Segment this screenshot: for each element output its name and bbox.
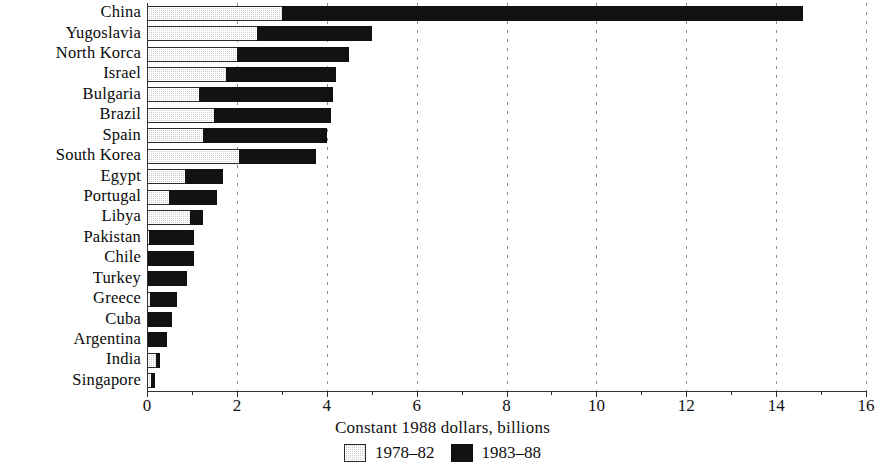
bar-israel bbox=[147, 67, 336, 82]
bar-segment-1978-82 bbox=[147, 87, 199, 102]
x-tick-minor bbox=[551, 391, 552, 395]
bar-segment-1978-82 bbox=[147, 169, 185, 184]
x-tick-label: 10 bbox=[576, 396, 616, 416]
bar-egypt bbox=[147, 169, 223, 184]
bar-segment-1983-88 bbox=[147, 271, 187, 286]
legend-item-early: 1978–82 bbox=[344, 443, 435, 463]
bar-libya bbox=[147, 210, 203, 225]
bar-cuba bbox=[147, 312, 172, 327]
bar-segment-1978-82 bbox=[147, 67, 226, 82]
bar-greece bbox=[147, 292, 177, 307]
bar-segment-1978-82 bbox=[147, 353, 156, 368]
x-tick-minor bbox=[372, 391, 373, 395]
bar-bulgaria bbox=[147, 87, 333, 102]
legend-label-early: 1978–82 bbox=[375, 443, 435, 463]
bar-india bbox=[147, 353, 160, 368]
bar-segment-1978-82 bbox=[147, 6, 282, 21]
bar-segment-1983-88 bbox=[169, 190, 216, 205]
category-label: Brazil bbox=[0, 106, 141, 122]
category-label: Turkey bbox=[0, 270, 141, 286]
category-label: Argentina bbox=[0, 331, 141, 347]
category-label: Cuba bbox=[0, 311, 141, 327]
bar-chile bbox=[147, 251, 194, 266]
x-tick-label: 12 bbox=[666, 396, 706, 416]
bar-pakistan bbox=[147, 230, 194, 245]
bar-segment-1983-88 bbox=[203, 128, 327, 143]
x-tick-minor bbox=[821, 391, 822, 395]
category-label: Singapore bbox=[0, 372, 141, 388]
bar-segment-1983-88 bbox=[214, 108, 331, 123]
x-tick-minor bbox=[462, 391, 463, 395]
bar-segment-1983-88 bbox=[156, 353, 160, 368]
x-tick-label: 0 bbox=[127, 396, 167, 416]
category-label: North Korca bbox=[0, 45, 141, 61]
bar-segment-1983-88 bbox=[226, 67, 336, 82]
bar-north-korca bbox=[147, 47, 349, 62]
plot-area bbox=[147, 3, 866, 391]
bar-segment-1983-88 bbox=[185, 169, 223, 184]
x-axis-title: Constant 1988 dollars, billions bbox=[0, 418, 885, 438]
x-tick-label: 14 bbox=[756, 396, 796, 416]
legend-item-late: 1983–88 bbox=[451, 443, 542, 463]
bar-segment-1983-88 bbox=[282, 6, 803, 21]
category-axis-labels: ChinaYugoslaviaNorth KorcaIsraelBulgaria… bbox=[0, 3, 141, 391]
category-label: Spain bbox=[0, 127, 141, 143]
category-label: India bbox=[0, 351, 141, 367]
x-tick-minor bbox=[641, 391, 642, 395]
bar-chart: ChinaYugoslaviaNorth KorcaIsraelBulgaria… bbox=[0, 0, 885, 467]
bar-brazil bbox=[147, 108, 331, 123]
x-tick-minor bbox=[192, 391, 193, 395]
category-label: Portugal bbox=[0, 188, 141, 204]
bar-segment-1978-82 bbox=[147, 190, 169, 205]
bar-segment-1983-88 bbox=[257, 26, 372, 41]
x-tick-minor bbox=[282, 391, 283, 395]
category-label: South Korea bbox=[0, 147, 141, 163]
category-label: China bbox=[0, 4, 141, 20]
category-label: Israel bbox=[0, 65, 141, 81]
legend-label-late: 1983–88 bbox=[482, 443, 542, 463]
category-label: Yugoslavia bbox=[0, 25, 141, 41]
bar-singapore bbox=[147, 373, 155, 388]
category-label: Pakistan bbox=[0, 229, 141, 245]
bar-segment-1983-88 bbox=[239, 149, 315, 164]
category-label: Egypt bbox=[0, 168, 141, 184]
bar-portugal bbox=[147, 190, 217, 205]
category-label: Chile bbox=[0, 249, 141, 265]
bar-segment-1978-82 bbox=[147, 47, 237, 62]
bar-segment-1983-88 bbox=[199, 87, 334, 102]
x-tick-label: 6 bbox=[397, 396, 437, 416]
y-axis-line bbox=[147, 3, 148, 392]
bar-china bbox=[147, 6, 803, 21]
category-label: Greece bbox=[0, 290, 141, 306]
category-label: Bulgaria bbox=[0, 86, 141, 102]
x-tick-minor bbox=[731, 391, 732, 395]
bar-segment-1983-88 bbox=[151, 373, 155, 388]
bar-segment-1983-88 bbox=[190, 210, 203, 225]
bar-segment-1978-82 bbox=[147, 128, 203, 143]
bar-segment-1983-88 bbox=[237, 47, 349, 62]
bar-segment-1978-82 bbox=[147, 149, 239, 164]
bar-south-korea bbox=[147, 149, 316, 164]
bar-segment-1983-88 bbox=[150, 292, 177, 307]
bar-segment-1978-82 bbox=[147, 210, 190, 225]
bar-segment-1983-88 bbox=[149, 230, 194, 245]
bar-segment-1978-82 bbox=[147, 108, 214, 123]
bar-yugoslavia bbox=[147, 26, 372, 41]
legend-swatch-1978-82-icon bbox=[344, 444, 366, 462]
bar-segment-1983-88 bbox=[147, 332, 167, 347]
category-label: Libya bbox=[0, 208, 141, 224]
x-tick-label: 8 bbox=[487, 396, 527, 416]
gridline bbox=[866, 3, 867, 391]
bar-spain bbox=[147, 128, 327, 143]
x-tick-label: 16 bbox=[846, 396, 885, 416]
x-tick-label: 4 bbox=[307, 396, 347, 416]
x-tick-label: 2 bbox=[217, 396, 257, 416]
bar-segment-1983-88 bbox=[147, 251, 194, 266]
chart-legend: 1978–82 1983–88 bbox=[0, 443, 885, 463]
bar-argentina bbox=[147, 332, 167, 347]
bar-segment-1978-82 bbox=[147, 26, 257, 41]
bar-segment-1983-88 bbox=[147, 312, 172, 327]
legend-swatch-1983-88-icon bbox=[451, 444, 473, 462]
bar-turkey bbox=[147, 271, 187, 286]
